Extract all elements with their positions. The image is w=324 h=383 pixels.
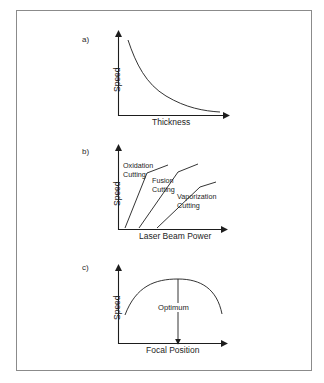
figure-canvas: a) Speed Thickness b) xyxy=(0,0,324,383)
figure-border xyxy=(16,10,312,371)
